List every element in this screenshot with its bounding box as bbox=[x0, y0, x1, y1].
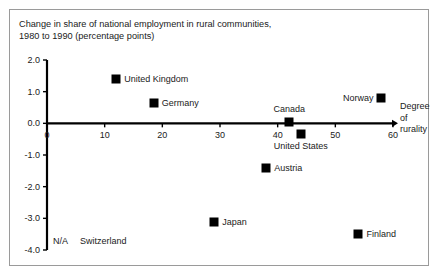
y-tick-label: -4.0 bbox=[24, 245, 40, 255]
na-annotation: N/ASwitzerland bbox=[53, 236, 127, 246]
na-country: Switzerland bbox=[80, 236, 127, 246]
data-marker bbox=[210, 217, 219, 226]
y-tick-label: 0.0 bbox=[27, 118, 40, 128]
data-marker bbox=[262, 163, 271, 172]
data-point-label: United States bbox=[274, 141, 328, 151]
data-marker bbox=[354, 230, 363, 239]
x-tick-label: 50 bbox=[330, 130, 340, 140]
x-tick-label: 0 bbox=[44, 130, 49, 140]
y-tick-label: -3.0 bbox=[24, 213, 40, 223]
data-point-label: Finland bbox=[366, 229, 396, 239]
data-point-label: Canada bbox=[273, 104, 305, 114]
data-marker bbox=[377, 94, 386, 103]
na-code: N/A bbox=[53, 236, 68, 246]
data-point-label: Norway bbox=[343, 93, 374, 103]
data-marker bbox=[296, 130, 305, 139]
data-point-label: Germany bbox=[162, 98, 199, 108]
y-tick-label: 1.0 bbox=[27, 87, 40, 97]
data-marker bbox=[112, 75, 121, 84]
data-marker bbox=[285, 117, 294, 126]
y-tick-label: -2.0 bbox=[24, 182, 40, 192]
y-tick-label: 2.0 bbox=[27, 55, 40, 65]
data-point-label: Japan bbox=[222, 217, 247, 227]
x-tick-label: 40 bbox=[273, 130, 283, 140]
data-point-label: United Kingdom bbox=[124, 74, 188, 84]
x-axis-title: Degree of rurality bbox=[400, 101, 430, 136]
data-marker bbox=[149, 98, 158, 107]
y-tick-label: -1.0 bbox=[24, 150, 40, 160]
data-point-label: Austria bbox=[274, 163, 302, 173]
x-tick-label: 20 bbox=[157, 130, 167, 140]
x-tick-label: 60 bbox=[388, 130, 398, 140]
x-tick-label: 30 bbox=[215, 130, 225, 140]
x-tick-label: 10 bbox=[100, 130, 110, 140]
chart-figure: Change in share of national employment i… bbox=[0, 0, 440, 280]
